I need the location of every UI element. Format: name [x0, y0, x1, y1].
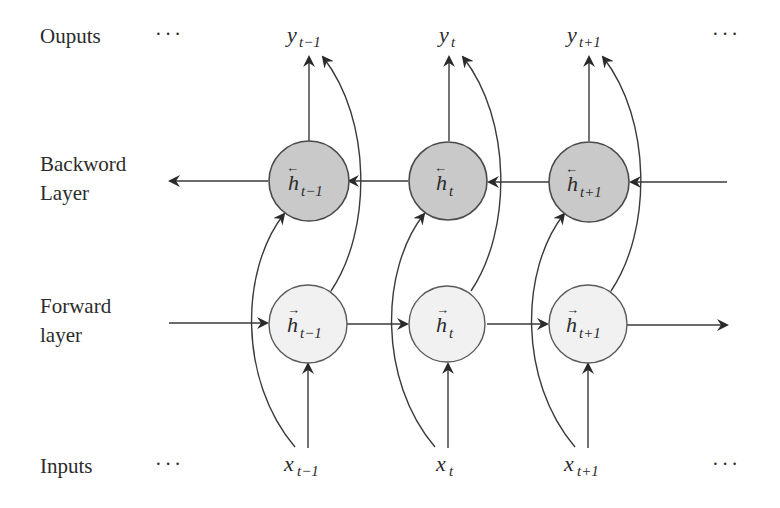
backward-subscript: t−1: [301, 183, 323, 199]
forward-layer-label-line2: layer: [40, 323, 82, 347]
input-labels: x t−1 x t x t+1: [283, 451, 599, 479]
input-subscript: t+1: [577, 463, 599, 479]
output-subscript: t−1: [299, 34, 321, 50]
output-labels: y t−1 y t y t+1: [285, 22, 601, 50]
output-symbol: y: [437, 22, 449, 47]
output-y-t-minus-1: y t−1: [285, 22, 321, 50]
forward-node-t: h → t: [409, 286, 485, 362]
output-subscript: t: [451, 34, 456, 50]
forward-subscript: t+1: [579, 325, 601, 341]
right-arrow-accent-icon: →: [287, 302, 300, 317]
right-arrow-accent-icon: →: [566, 302, 579, 317]
forward-node-t-minus-1: h → t−1: [269, 285, 347, 363]
input-symbol: x: [435, 451, 446, 476]
backward-layer-label-line2: Layer: [40, 181, 89, 205]
input-symbol: x: [283, 451, 294, 476]
outputs-dots-left: ···: [155, 23, 184, 45]
bidirectional-rnn-diagram: Ouputs ··· Backword Layer Forward layer …: [0, 0, 780, 508]
left-arrow-accent-icon: ←: [434, 160, 447, 175]
column-t-plus-1-edges: [532, 57, 641, 448]
forward-layer-label-line1: Forward: [40, 294, 112, 318]
output-subscript: t+1: [579, 34, 601, 50]
input-subscript: t: [449, 463, 454, 479]
forward-node-t-plus-1: h → t+1: [549, 285, 627, 363]
right-arrow-accent-icon: →: [436, 302, 449, 317]
left-arrow-accent-icon: ←: [565, 161, 578, 176]
input-x-t-plus-1: x t+1: [563, 451, 599, 479]
column-t-edges: [392, 57, 501, 448]
output-symbol: y: [565, 22, 577, 47]
left-arrow-accent-icon: ←: [286, 160, 299, 175]
column-t-minus-1-edges: [252, 57, 361, 448]
inputs-dots-left: ···: [155, 453, 184, 475]
forward-subscript: t−1: [300, 325, 322, 341]
input-x-t-minus-1: x t−1: [283, 451, 319, 479]
input-symbol: x: [563, 451, 574, 476]
backward-node-t-minus-1: h ← t−1: [269, 141, 349, 221]
input-subscript: t−1: [297, 463, 319, 479]
output-symbol: y: [285, 22, 297, 47]
backward-node-t: h ← t: [409, 142, 487, 220]
input-x-t: x t: [435, 451, 454, 479]
outputs-dots-right: ···: [712, 23, 741, 45]
inputs-dots-right: ···: [712, 453, 741, 475]
backward-node-t-plus-1: h ← t+1: [549, 142, 629, 222]
inputs-label: Inputs: [40, 454, 93, 478]
output-y-t: y t: [437, 22, 456, 50]
row-labels: Ouputs ··· Backword Layer Forward layer …: [40, 23, 741, 478]
outputs-label: Ouputs: [40, 24, 101, 48]
backward-layer-label-line1: Backword: [40, 152, 127, 176]
backward-subscript: t+1: [580, 184, 602, 200]
output-y-t-plus-1: y t+1: [565, 22, 601, 50]
